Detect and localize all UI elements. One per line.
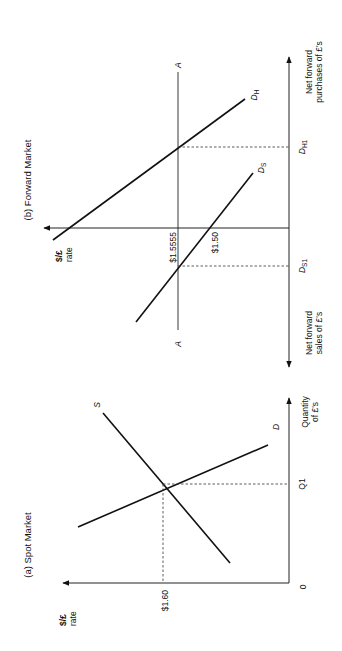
spot-market-title: (a) Spot Market	[22, 512, 33, 578]
svg-text:sales of £'s: sales of £'s	[314, 312, 324, 354]
line-A-top-label: A	[173, 62, 183, 69]
svg-text:of £'s: of £'s	[310, 402, 320, 422]
svg-text:Quantity: Quantity	[300, 395, 310, 427]
svg-text:rate: rate	[68, 611, 78, 626]
exchange-market-diagram: (b) Forward Market $/£ rate Net forward …	[0, 0, 342, 651]
svg-text:rate: rate	[64, 247, 74, 262]
net-forward-sales-label: Net forward sales of £'s	[304, 311, 324, 355]
svg-text:$/£: $/£	[54, 250, 64, 262]
forward-market-panel: (b) Forward Market $/£ rate Net forward …	[22, 41, 324, 367]
spot-demand-curve	[78, 445, 268, 527]
svg-text:$/£: $/£	[58, 614, 68, 626]
DH1-quantity-label: DH1	[297, 139, 308, 154]
price-1-50-label: $1.50	[210, 232, 220, 254]
speculator-demand-curve-DS	[136, 173, 253, 322]
spot-demand-label: D	[271, 424, 281, 430]
spot-origin-label: 0	[298, 584, 308, 589]
DH-curve-label: DH	[249, 89, 260, 100]
spot-supply-label: S	[92, 402, 102, 408]
forward-price-axis-label: $/£ rate	[54, 247, 74, 262]
DS1-quantity-label: DS1	[297, 259, 308, 273]
price-1-5555-label: $1.5555	[168, 232, 178, 263]
Q1-label: Q1	[297, 478, 307, 490]
svg-text:purchases of £'s: purchases of £'s	[314, 41, 324, 103]
line-A-bottom-label: A	[173, 341, 183, 348]
DS-curve-label: DS	[256, 162, 267, 173]
spot-price-1-60-label: $1.60	[160, 590, 170, 612]
spot-quantity-axis-label: Quantity of £'s	[300, 395, 320, 427]
svg-text:Net forward: Net forward	[304, 311, 314, 355]
forward-market-title: (b) Forward Market	[22, 139, 33, 220]
spot-price-axis-label: $/£ rate	[58, 611, 78, 626]
spot-market-panel: (a) Spot Market $/£ rate Quantity of £'s…	[22, 395, 320, 626]
net-forward-purchases-label: Net forward purchases of £'s	[304, 41, 324, 103]
svg-text:Net forward: Net forward	[304, 50, 314, 94]
